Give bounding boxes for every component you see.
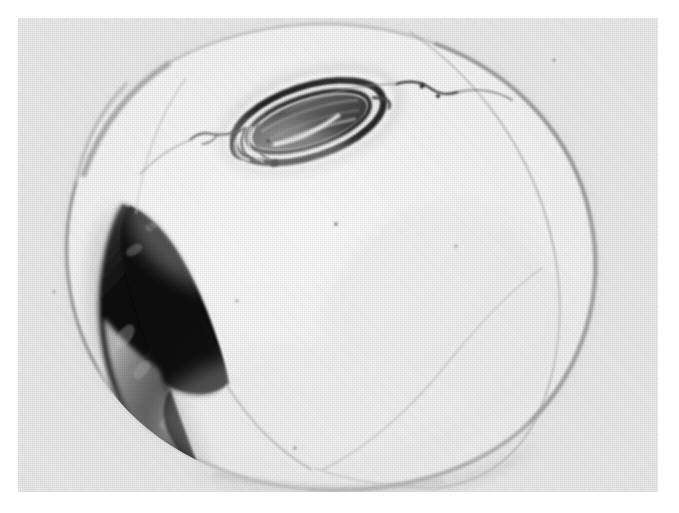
photographic-plate [18,18,658,492]
speck [436,94,440,98]
specimen-layer [18,18,658,492]
speck [553,59,556,62]
speck [53,291,56,294]
speck [420,84,425,89]
figure-container [0,0,679,513]
speck [236,300,239,303]
